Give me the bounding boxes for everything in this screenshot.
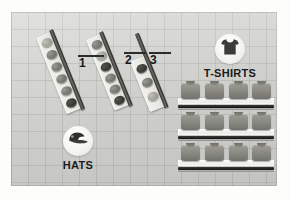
tshirt-item[interactable] bbox=[229, 145, 248, 161]
badge-disc bbox=[63, 126, 93, 156]
callout-number: 2 bbox=[125, 54, 132, 67]
baseball-cap-icon bbox=[67, 132, 89, 151]
shelf-bar-lower bbox=[178, 170, 274, 172]
callout-number: 1 bbox=[79, 57, 86, 70]
badge-disc bbox=[215, 34, 245, 64]
tshirt-item[interactable] bbox=[205, 145, 224, 161]
tshirt-item[interactable] bbox=[229, 114, 248, 130]
shelf-bar-lower bbox=[178, 139, 274, 141]
tshirt-item[interactable] bbox=[229, 83, 248, 99]
hats-badge[interactable]: HATS bbox=[46, 126, 110, 171]
tshirt-shelf-2[interactable] bbox=[178, 113, 274, 141]
callout-number: 3 bbox=[150, 54, 157, 67]
shelf-bar-lower bbox=[178, 108, 274, 110]
tshirt-item[interactable] bbox=[181, 145, 200, 161]
tshirts-badge[interactable]: T-SHIRTS bbox=[194, 34, 266, 79]
tshirt-item[interactable] bbox=[181, 114, 200, 130]
tshirt-item[interactable] bbox=[205, 114, 224, 130]
tshirt-item[interactable] bbox=[181, 83, 200, 99]
tshirt-shelf-1[interactable] bbox=[178, 82, 274, 110]
t-shirt-icon bbox=[220, 38, 240, 60]
tshirt-item[interactable] bbox=[252, 145, 271, 161]
tshirt-item[interactable] bbox=[252, 83, 271, 99]
planogram-diagram: 1 2 3 bbox=[0, 0, 290, 200]
tshirt-shelf-3[interactable] bbox=[178, 144, 274, 172]
tshirt-item[interactable] bbox=[205, 83, 224, 99]
tshirt-item[interactable] bbox=[252, 114, 271, 130]
badge-label: HATS bbox=[46, 159, 110, 171]
badge-label: T-SHIRTS bbox=[194, 67, 266, 79]
